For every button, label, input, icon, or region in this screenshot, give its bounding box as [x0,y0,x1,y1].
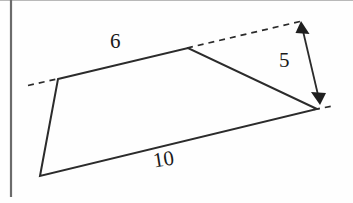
height-label: 5 [279,50,290,71]
side-label-top: 6 [110,31,121,52]
geometry-figure: 6 10 5 [0,0,353,203]
side-label-bottom: 10 [151,147,175,171]
figure-canvas [0,0,353,203]
